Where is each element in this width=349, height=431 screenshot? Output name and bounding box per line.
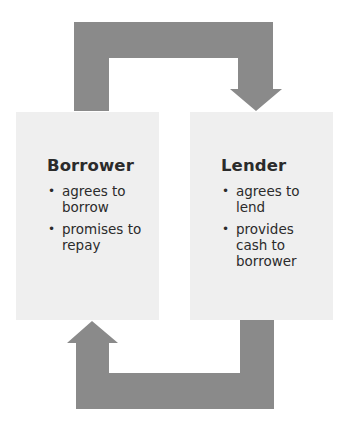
lender-box: Lender • agrees to lend • provides cash … [190,112,333,320]
borrower-bullet-list: • agrees to borrow • promises to repay [48,183,142,259]
bullet-icon: • [222,183,229,199]
bullet-icon: • [48,183,55,199]
bullet-text: agrees to lend [236,183,316,215]
list-item: • agrees to borrow [48,183,142,215]
list-item: • promises to repay [48,221,142,253]
bullet-icon: • [48,221,55,237]
bullet-text: agrees to borrow [62,183,142,215]
bullet-text: promises to repay [62,221,142,253]
list-item: • agrees to lend [222,183,316,215]
bullet-icon: • [222,221,229,237]
arrow-lender-to-borrower [67,320,274,409]
bullet-text: provides cash to borrower [236,221,316,269]
arrow-borrower-to-lender [74,22,282,111]
list-item: • provides cash to borrower [222,221,316,269]
borrower-box: Borrower • agrees to borrow • promises t… [16,112,159,320]
lender-bullet-list: • agrees to lend • provides cash to borr… [222,183,316,275]
borrower-title: Borrower [47,156,134,175]
lender-title: Lender [221,156,286,175]
